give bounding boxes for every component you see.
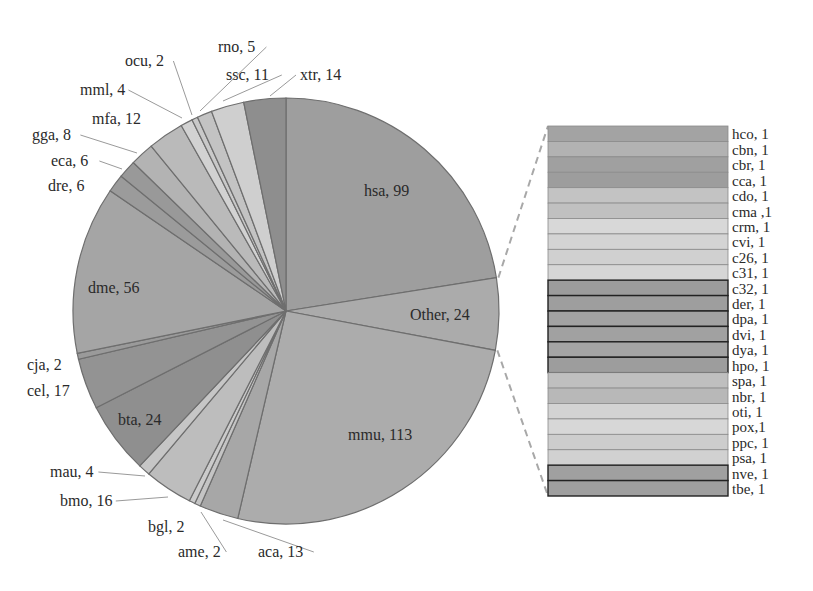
pie-to-bar-connectors bbox=[497, 126, 548, 496]
slice-label-ssc: ssc, 11 bbox=[226, 66, 269, 83]
slice-label-mfa: mfa, 12 bbox=[92, 110, 141, 127]
bar-segment-oti bbox=[548, 404, 728, 419]
other-breakdown-labels: hco, 1cbn, 1cbr, 1cca, 1cdo, 1cma ,1crm,… bbox=[732, 126, 772, 497]
slice-label-rno: rno, 5 bbox=[218, 38, 255, 55]
bar-segment-nbr bbox=[548, 388, 728, 403]
leader-line bbox=[173, 61, 192, 115]
bar-label-c26: c26, 1 bbox=[732, 250, 769, 266]
pie-slice-hsa bbox=[286, 98, 496, 311]
slice-label-other: Other, 24 bbox=[410, 306, 470, 323]
slice-label-eca: eca, 6 bbox=[51, 152, 88, 169]
bar-segment-cbn bbox=[548, 141, 728, 156]
bar-label-nbr: nbr, 1 bbox=[732, 389, 766, 405]
slice-label-mau: mau, 4 bbox=[50, 463, 94, 480]
bar-label-pox: pox,1 bbox=[732, 419, 766, 435]
bar-segment-cvi bbox=[548, 234, 728, 249]
bar-segment-hco bbox=[548, 126, 728, 141]
bar-segment-nve bbox=[548, 465, 728, 480]
bar-label-dpa: dpa, 1 bbox=[732, 311, 769, 327]
slice-label-aca: aca, 13 bbox=[258, 543, 303, 560]
bar-segment-dya bbox=[548, 342, 728, 357]
slice-label-mml: mml, 4 bbox=[80, 81, 125, 98]
bar-label-crm: crm, 1 bbox=[732, 219, 770, 235]
bar-segment-pox bbox=[548, 419, 728, 434]
bar-label-cbr: cbr, 1 bbox=[732, 157, 766, 173]
slice-label-ocu: ocu, 2 bbox=[125, 52, 164, 69]
chart-canvas: hsa, 99Other, 24mmu, 113dme, 56bta, 24xt… bbox=[0, 0, 813, 591]
bar-label-cma: cma ,1 bbox=[732, 204, 772, 220]
bar-label-der: der, 1 bbox=[732, 296, 766, 312]
bar-label-cca: cca, 1 bbox=[732, 173, 767, 189]
slice-label-ame: ame, 2 bbox=[178, 543, 221, 560]
bar-label-hco: hco, 1 bbox=[732, 126, 769, 142]
bar-segment-cbr bbox=[548, 157, 728, 172]
bar-segment-ppc bbox=[548, 434, 728, 449]
slice-label-hsa: hsa, 99 bbox=[364, 182, 409, 199]
bar-segment-tbe bbox=[548, 481, 728, 496]
bar-label-nve: nve, 1 bbox=[732, 466, 769, 482]
bar-segment-dpa bbox=[548, 311, 728, 326]
bar-label-tbe: tbe, 1 bbox=[732, 481, 765, 497]
slice-label-mmu: mmu, 113 bbox=[348, 426, 412, 443]
bar-segment-spa bbox=[548, 373, 728, 388]
bar-segment-c32 bbox=[548, 280, 728, 295]
bar-label-cdo: cdo, 1 bbox=[732, 188, 769, 204]
slice-label-xtr: xtr, 14 bbox=[300, 66, 341, 83]
bar-segment-cma bbox=[548, 203, 728, 218]
bar-label-c31: c31, 1 bbox=[732, 265, 769, 281]
bar-segment-hpo bbox=[548, 357, 728, 372]
bar-label-cbn: cbn, 1 bbox=[732, 142, 769, 158]
bar-label-spa: spa, 1 bbox=[732, 373, 767, 389]
bar-segment-psa bbox=[548, 450, 728, 465]
pie-of-pie-chart: hsa, 99Other, 24mmu, 113dme, 56bta, 24xt… bbox=[0, 0, 813, 591]
bar-label-psa: psa, 1 bbox=[732, 450, 767, 466]
slice-label-cja: cja, 2 bbox=[27, 356, 62, 374]
bar-label-c32: c32, 1 bbox=[732, 281, 769, 297]
bar-label-cvi: cvi, 1 bbox=[732, 234, 765, 250]
other-breakdown-bar bbox=[548, 126, 728, 496]
slice-label-gga: gga, 8 bbox=[32, 126, 71, 144]
leader-line bbox=[116, 497, 168, 501]
leader-line bbox=[98, 472, 145, 476]
bar-segment-cca bbox=[548, 172, 728, 187]
connector-bottom bbox=[497, 350, 548, 496]
leader-line bbox=[80, 135, 137, 153]
bar-label-hpo: hpo, 1 bbox=[732, 358, 770, 374]
slice-label-cel: cel, 17 bbox=[27, 382, 70, 399]
bar-label-dvi: dvi, 1 bbox=[732, 327, 766, 343]
bar-segment-der bbox=[548, 296, 728, 311]
bar-segment-crm bbox=[548, 219, 728, 234]
connector-top bbox=[498, 126, 548, 278]
bar-label-dya: dya, 1 bbox=[732, 342, 769, 358]
bar-segment-c31 bbox=[548, 265, 728, 280]
slice-label-dre: dre, 6 bbox=[48, 177, 84, 194]
bar-label-oti: oti, 1 bbox=[732, 404, 763, 420]
slice-label-bta: bta, 24 bbox=[118, 411, 162, 428]
slice-label-dme: dme, 56 bbox=[88, 279, 140, 296]
bar-label-ppc: ppc, 1 bbox=[732, 435, 769, 451]
slice-label-bgl: bgl, 2 bbox=[148, 518, 184, 536]
leader-line bbox=[99, 161, 122, 169]
slice-label-bmo: bmo, 16 bbox=[60, 492, 112, 509]
bar-segment-dvi bbox=[548, 326, 728, 341]
bar-segment-cdo bbox=[548, 188, 728, 203]
bar-segment-c26 bbox=[548, 249, 728, 264]
